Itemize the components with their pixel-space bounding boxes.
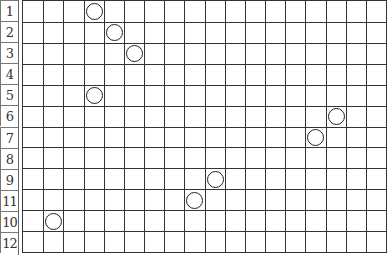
- grid-cell[interactable]: [285, 168, 305, 189]
- grid-cell[interactable]: [23, 168, 43, 189]
- grid-cell[interactable]: [245, 210, 265, 231]
- grid-cell[interactable]: [164, 168, 184, 189]
- grid-cell[interactable]: [23, 85, 43, 106]
- grid-cell[interactable]: [104, 210, 124, 231]
- grid-cell[interactable]: [225, 43, 245, 64]
- grid-cell[interactable]: [164, 189, 184, 210]
- grid-cell[interactable]: [144, 168, 164, 189]
- grid-cell[interactable]: [84, 168, 104, 189]
- grid-cell[interactable]: [326, 210, 346, 231]
- grid-cell[interactable]: [346, 106, 366, 127]
- grid-cell[interactable]: [245, 147, 265, 168]
- grid-cell[interactable]: [305, 1, 325, 22]
- grid-cell[interactable]: [184, 231, 204, 252]
- grid-cell[interactable]: [144, 85, 164, 106]
- grid-cell[interactable]: [225, 106, 245, 127]
- grid-cell[interactable]: [366, 168, 386, 189]
- grid-cell[interactable]: [144, 22, 164, 43]
- grid-cell[interactable]: [104, 189, 124, 210]
- grid-cell[interactable]: [205, 106, 225, 127]
- grid-cell[interactable]: [84, 189, 104, 210]
- grid-cell[interactable]: [305, 210, 325, 231]
- grid-cell[interactable]: [23, 231, 43, 252]
- grid-cell[interactable]: [205, 189, 225, 210]
- grid-cell[interactable]: [285, 189, 305, 210]
- grid-cell[interactable]: [285, 64, 305, 85]
- grid-cell[interactable]: [184, 127, 204, 148]
- grid-cell[interactable]: [84, 127, 104, 148]
- grid-cell[interactable]: [63, 127, 83, 148]
- grid-cell[interactable]: [245, 85, 265, 106]
- grid-cell[interactable]: [225, 1, 245, 22]
- grid-cell[interactable]: [124, 189, 144, 210]
- grid-cell[interactable]: [305, 231, 325, 252]
- grid-cell[interactable]: [23, 189, 43, 210]
- grid-cell[interactable]: [164, 64, 184, 85]
- grid-cell[interactable]: [144, 1, 164, 22]
- grid-cell[interactable]: [346, 22, 366, 43]
- grid-cell[interactable]: [84, 22, 104, 43]
- grid-cell[interactable]: [265, 106, 285, 127]
- grid-cell[interactable]: [285, 85, 305, 106]
- grid-cell[interactable]: [366, 106, 386, 127]
- grid-cell[interactable]: [366, 210, 386, 231]
- grid-cell[interactable]: [305, 64, 325, 85]
- grid-cell[interactable]: [205, 64, 225, 85]
- grid-cell[interactable]: [84, 106, 104, 127]
- grid-cell[interactable]: [305, 43, 325, 64]
- grid-cell[interactable]: [265, 43, 285, 64]
- grid-cell[interactable]: [23, 22, 43, 43]
- grid-cell[interactable]: [265, 210, 285, 231]
- grid-cell[interactable]: [84, 43, 104, 64]
- grid-cell[interactable]: [346, 210, 366, 231]
- grid-cell[interactable]: [285, 22, 305, 43]
- grid-cell[interactable]: [326, 22, 346, 43]
- grid-cell[interactable]: [245, 22, 265, 43]
- grid-cell[interactable]: [205, 127, 225, 148]
- grid-cell[interactable]: [366, 85, 386, 106]
- grid-cell[interactable]: [63, 168, 83, 189]
- grid-cell[interactable]: [366, 127, 386, 148]
- grid-cell[interactable]: [23, 106, 43, 127]
- grid-cell[interactable]: [63, 106, 83, 127]
- grid-cell[interactable]: [43, 64, 63, 85]
- grid-cell[interactable]: [305, 147, 325, 168]
- grid-cell[interactable]: [63, 43, 83, 64]
- grid-cell[interactable]: [23, 210, 43, 231]
- grid-cell[interactable]: [265, 189, 285, 210]
- grid-cell[interactable]: [366, 189, 386, 210]
- grid-cell[interactable]: [43, 1, 63, 22]
- grid-cell[interactable]: [184, 147, 204, 168]
- grid-cell[interactable]: [205, 22, 225, 43]
- grid-cell[interactable]: [124, 64, 144, 85]
- grid-cell[interactable]: [104, 127, 124, 148]
- grid-cell[interactable]: [43, 231, 63, 252]
- game-grid[interactable]: [22, 0, 387, 253]
- grid-cell[interactable]: [63, 189, 83, 210]
- grid-cell[interactable]: [346, 1, 366, 22]
- grid-cell[interactable]: [144, 189, 164, 210]
- grid-cell[interactable]: [245, 189, 265, 210]
- grid-cell[interactable]: [245, 106, 265, 127]
- grid-cell[interactable]: [245, 168, 265, 189]
- grid-cell[interactable]: [84, 210, 104, 231]
- grid-cell[interactable]: [205, 1, 225, 22]
- grid-cell[interactable]: [144, 43, 164, 64]
- grid-cell[interactable]: [164, 106, 184, 127]
- grid-cell[interactable]: [305, 85, 325, 106]
- grid-cell[interactable]: [144, 106, 164, 127]
- grid-cell[interactable]: [346, 85, 366, 106]
- grid-cell[interactable]: [265, 231, 285, 252]
- grid-cell[interactable]: [84, 147, 104, 168]
- grid-cell[interactable]: [124, 106, 144, 127]
- grid-cell[interactable]: [63, 210, 83, 231]
- grid-cell[interactable]: [326, 168, 346, 189]
- grid-cell[interactable]: [265, 22, 285, 43]
- grid-cell[interactable]: [225, 64, 245, 85]
- grid-cell[interactable]: [104, 168, 124, 189]
- grid-cell[interactable]: [124, 210, 144, 231]
- grid-cell[interactable]: [144, 147, 164, 168]
- grid-cell[interactable]: [164, 85, 184, 106]
- grid-cell[interactable]: [225, 22, 245, 43]
- grid-cell[interactable]: [265, 147, 285, 168]
